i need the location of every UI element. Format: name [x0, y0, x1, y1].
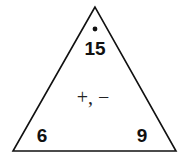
fact-triangle-svg: 15 +, − 6 9	[0, 0, 186, 159]
bottom-right-number: 9	[137, 125, 148, 146]
operations-label: +, −	[77, 86, 110, 108]
fact-triangle-diagram: 15 +, − 6 9	[0, 0, 186, 159]
top-dot-marker	[93, 27, 98, 32]
top-number: 15	[84, 38, 106, 59]
bottom-left-number: 6	[37, 125, 48, 146]
